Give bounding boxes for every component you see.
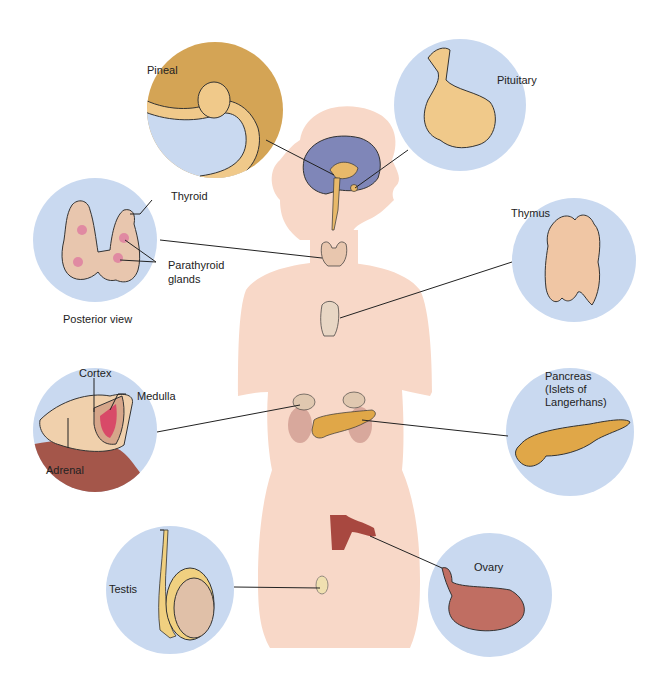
thymus-illustration (545, 215, 600, 305)
label-pineal: Pineal (147, 64, 178, 77)
label-posterior-view: Posterior view (63, 313, 132, 326)
diagram-canvas (0, 0, 665, 689)
thymus-small (321, 301, 339, 336)
label-pancreas-3: Langerhans) (545, 396, 607, 409)
label-thyroid: Thyroid (171, 190, 208, 203)
label-adrenal: Adrenal (46, 464, 84, 477)
label-ovary: Ovary (474, 561, 503, 574)
testis-small (316, 576, 328, 594)
endocrine-diagram: Pineal Pituitary Thyroid Parathyroid gla… (0, 0, 665, 689)
label-parathyroid-1: Parathyroid (168, 259, 224, 272)
label-testis: Testis (109, 583, 137, 596)
label-thymus: Thymus (511, 207, 550, 220)
label-pancreas-1: Pancreas (545, 370, 591, 383)
label-cortex: Cortex (79, 367, 111, 380)
label-pituitary: Pituitary (497, 74, 537, 87)
label-pancreas-2: (Islets of (545, 383, 587, 396)
label-medulla: Medulla (137, 390, 176, 403)
label-parathyroid-2: glands (168, 273, 200, 286)
